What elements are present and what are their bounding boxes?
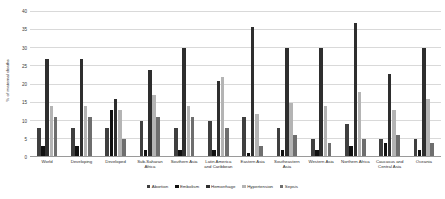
y-axis-tick-label: 30 <box>22 45 27 50</box>
x-axis-category-label: Sub-Saharan Africa <box>133 159 167 183</box>
bar <box>379 139 383 157</box>
bar <box>174 128 178 157</box>
bar <box>277 128 281 157</box>
legend-label: Embolism <box>180 184 199 189</box>
bar-group <box>99 12 133 157</box>
bar-group <box>236 12 270 157</box>
bar <box>80 59 84 157</box>
y-axis-tick-label: 35 <box>22 27 27 32</box>
bar <box>148 70 152 157</box>
bar <box>152 95 156 157</box>
x-axis-labels: WorldDevelopingDevelopedSub-Saharan Afri… <box>30 159 441 183</box>
bar <box>354 23 358 157</box>
x-axis-category-label: Caucasus and Central Asia <box>373 159 407 183</box>
bar <box>118 110 122 157</box>
bar <box>114 99 118 157</box>
bar-group <box>167 12 201 157</box>
legend-item[interactable]: Sepsis <box>280 184 298 189</box>
y-axis-tick-label: 15 <box>22 100 27 105</box>
bar <box>414 139 418 157</box>
bar <box>311 139 315 157</box>
bar <box>289 103 293 157</box>
x-axis-category-label: Southern Asia <box>167 159 201 183</box>
bar <box>362 139 366 157</box>
y-axis-tick-label: 5 <box>24 136 27 141</box>
y-axis-title: % of maternal deaths <box>1 0 13 160</box>
bar <box>45 59 49 157</box>
bar <box>293 135 297 157</box>
bar <box>358 92 362 157</box>
bar-group <box>407 12 441 157</box>
legend-swatch <box>175 185 178 188</box>
bar-group <box>373 12 407 157</box>
bar <box>221 77 225 157</box>
bar <box>324 106 328 157</box>
legend-label: Abortion <box>152 184 168 189</box>
x-axis-category-label: Eastern Asia <box>236 159 270 183</box>
x-axis-category-label: Developed <box>99 159 133 183</box>
y-axis-tick-label: 20 <box>22 82 27 87</box>
bar <box>187 106 191 157</box>
bar-group <box>64 12 98 157</box>
x-axis-category-label: Northern Africa <box>338 159 372 183</box>
bar-group <box>30 12 64 157</box>
bars-layer <box>30 12 441 157</box>
bar-group <box>201 12 235 157</box>
x-axis-category-label: World <box>30 159 64 183</box>
bar <box>396 135 400 157</box>
x-axis-category-label: Developing <box>64 159 98 183</box>
bar <box>191 117 195 157</box>
bar-group <box>338 12 372 157</box>
bar <box>54 117 58 157</box>
bar <box>328 143 332 158</box>
bar <box>388 74 392 157</box>
x-axis-category-label: Latin America and Caribbean <box>201 159 235 183</box>
bar <box>319 48 323 157</box>
bar <box>426 99 430 157</box>
chart-legend: AbortionEmbolismHemorrhageHypertensionSe… <box>0 184 445 189</box>
legend-item[interactable]: Embolism <box>175 184 199 189</box>
bar <box>50 106 54 157</box>
bar <box>392 110 396 157</box>
bar <box>225 128 229 157</box>
bar <box>285 48 289 157</box>
legend-label: Hypertension <box>247 184 273 189</box>
x-axis-category-label: Oceania <box>407 159 441 183</box>
bar-group <box>270 12 304 157</box>
bar <box>122 139 126 157</box>
bar <box>37 128 41 157</box>
bar <box>156 117 160 157</box>
x-axis-baseline <box>30 156 441 157</box>
bar <box>140 121 144 157</box>
x-axis-category-label: Western Asia <box>304 159 338 183</box>
legend-item[interactable]: Abortion <box>147 184 168 189</box>
legend-label: Hemorrhage <box>211 184 235 189</box>
bar <box>345 124 349 157</box>
y-axis-title-text: % of maternal deaths <box>5 59 10 102</box>
bar <box>251 27 255 158</box>
bar-group <box>133 12 167 157</box>
bar <box>110 110 114 157</box>
bar <box>84 106 88 157</box>
legend-item[interactable]: Hemorrhage <box>206 184 235 189</box>
y-axis-tick-label: 40 <box>22 9 27 14</box>
x-axis-category-label: Southeastern Asia <box>270 159 304 183</box>
legend-swatch <box>147 185 150 188</box>
legend-item[interactable]: Hypertension <box>242 184 273 189</box>
bar <box>255 114 259 158</box>
legend-swatch <box>242 185 245 188</box>
bar <box>217 81 221 157</box>
legend-swatch <box>280 185 283 188</box>
y-axis-tick-label: 0 <box>24 155 27 160</box>
bar <box>71 128 75 157</box>
legend-swatch <box>206 185 209 188</box>
bar <box>430 143 434 158</box>
bar <box>208 121 212 157</box>
bar <box>384 143 388 158</box>
maternal-deaths-bar-chart: % of maternal deaths 0510152025303540 Wo… <box>0 0 445 199</box>
y-axis-tick-label: 25 <box>22 63 27 68</box>
bar <box>182 48 186 157</box>
y-axis-tick-label: 10 <box>22 118 27 123</box>
bar <box>242 117 246 157</box>
plot-area: 0510152025303540 <box>30 12 441 157</box>
